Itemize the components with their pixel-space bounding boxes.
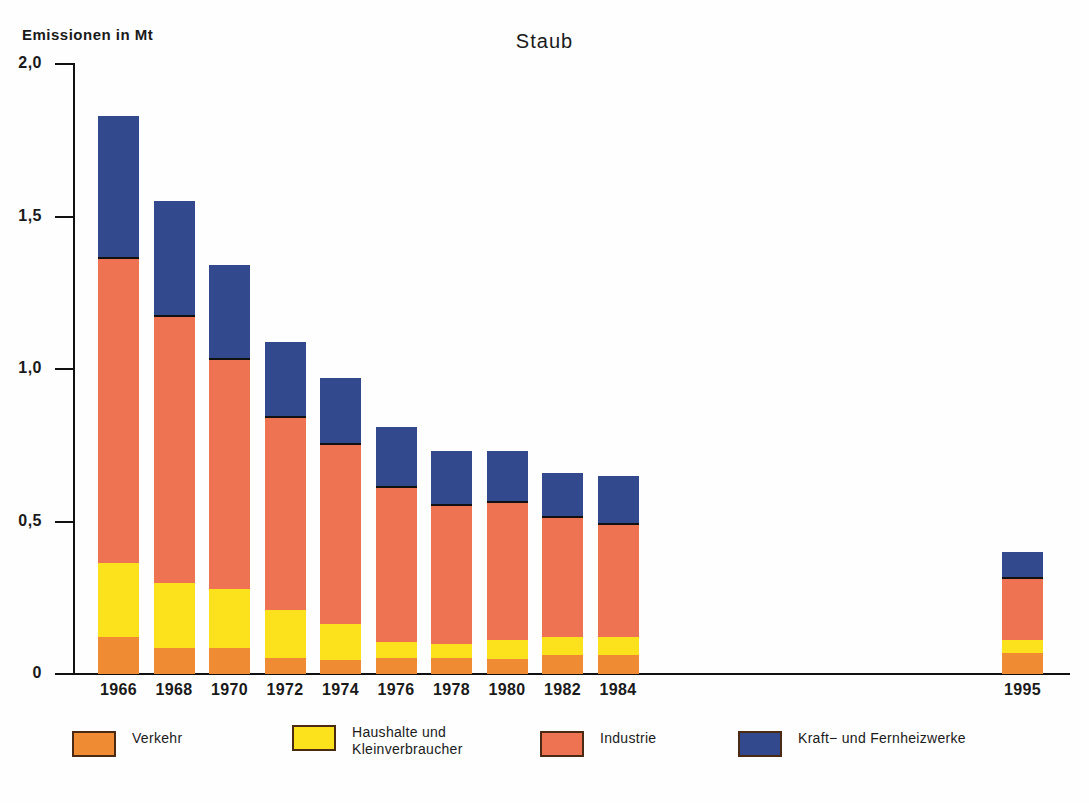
bar-1970[interactable] bbox=[209, 265, 250, 674]
bar-segment-haushalte bbox=[376, 642, 417, 658]
bar-segment-industrie bbox=[265, 418, 306, 610]
bar-segment-industrie bbox=[1002, 579, 1043, 640]
bar-1968[interactable] bbox=[154, 201, 195, 674]
bar-1982[interactable] bbox=[542, 473, 583, 674]
bar-segment-kraft bbox=[1002, 552, 1043, 579]
y-tick-2 bbox=[55, 368, 75, 370]
bar-segment-verkehr bbox=[154, 648, 195, 674]
y-tick-0 bbox=[55, 63, 75, 65]
legend-item-2[interactable]: Industrie bbox=[540, 730, 656, 757]
plot-area: 2,01,51,00,50 19661968197019721974197619… bbox=[0, 0, 1089, 700]
bar-1978[interactable] bbox=[431, 451, 472, 674]
bar-segment-kraft bbox=[376, 427, 417, 488]
bar-segment-haushalte bbox=[542, 637, 583, 655]
bar-segment-haushalte bbox=[265, 610, 306, 658]
legend-label-1: Haushalte und Kleinverbraucher bbox=[352, 724, 463, 758]
legend-item-0[interactable]: Verkehr bbox=[72, 730, 182, 757]
bar-segment-haushalte bbox=[431, 644, 472, 659]
legend-swatch-icon-3 bbox=[738, 731, 782, 757]
bar-1966[interactable] bbox=[98, 116, 139, 674]
bar-segment-haushalte bbox=[209, 589, 250, 648]
bar-segment-haushalte bbox=[1002, 640, 1043, 652]
bar-segment-verkehr bbox=[320, 660, 361, 674]
bar-segment-industrie bbox=[376, 488, 417, 642]
bar-segment-haushalte bbox=[154, 583, 195, 649]
bar-segment-kraft bbox=[542, 473, 583, 519]
x-axis-label-1995: 1995 bbox=[983, 681, 1063, 699]
bar-segment-verkehr bbox=[431, 658, 472, 674]
legend: VerkehrHaushalte und KleinverbraucherInd… bbox=[0, 722, 1089, 782]
bar-segment-kraft bbox=[320, 378, 361, 445]
legend-swatch-icon-1 bbox=[292, 725, 336, 751]
y-tick-label-0: 2,0 bbox=[0, 54, 42, 72]
bar-segment-industrie bbox=[98, 259, 139, 562]
bar-segment-industrie bbox=[154, 317, 195, 582]
bar-segment-industrie bbox=[598, 525, 639, 638]
bar-segment-verkehr bbox=[98, 637, 139, 674]
bar-segment-kraft bbox=[98, 116, 139, 259]
bar-segment-industrie bbox=[542, 518, 583, 637]
bar-segment-haushalte bbox=[487, 640, 528, 658]
y-tick-4 bbox=[55, 673, 75, 675]
legend-swatch-icon-2 bbox=[540, 731, 584, 757]
bar-1976[interactable] bbox=[376, 427, 417, 674]
bar-1984[interactable] bbox=[598, 476, 639, 674]
bar-segment-industrie bbox=[487, 503, 528, 640]
bar-segment-verkehr bbox=[265, 658, 306, 674]
bar-segment-verkehr bbox=[209, 648, 250, 674]
legend-label-3: Kraft− und Fernheizwerke bbox=[798, 730, 966, 747]
y-tick-1 bbox=[55, 216, 75, 218]
legend-item-3[interactable]: Kraft− und Fernheizwerke bbox=[738, 730, 966, 757]
bar-segment-kraft bbox=[598, 476, 639, 525]
bar-segment-kraft bbox=[154, 201, 195, 317]
bar-segment-haushalte bbox=[320, 624, 361, 660]
x-axis-label-1984: 1984 bbox=[578, 681, 658, 699]
bar-segment-industrie bbox=[209, 360, 250, 589]
y-tick-label-3: 0,5 bbox=[0, 512, 42, 530]
bar-segment-industrie bbox=[320, 445, 361, 624]
bar-segment-haushalte bbox=[598, 637, 639, 655]
legend-item-1[interactable]: Haushalte und Kleinverbraucher bbox=[292, 724, 463, 758]
y-tick-label-2: 1,0 bbox=[0, 359, 42, 377]
bar-segment-kraft bbox=[487, 451, 528, 503]
y-tick-3 bbox=[55, 521, 75, 523]
bar-segment-verkehr bbox=[542, 655, 583, 674]
bar-1995[interactable] bbox=[1002, 552, 1043, 674]
bar-1974[interactable] bbox=[320, 378, 361, 674]
bar-segment-haushalte bbox=[98, 563, 139, 638]
bar-segment-industrie bbox=[431, 506, 472, 643]
y-tick-label-4: 0 bbox=[0, 664, 42, 682]
bar-segment-kraft bbox=[209, 265, 250, 360]
chart-root: Emissionen in Mt Staub 2,01,51,00,50 196… bbox=[0, 0, 1089, 803]
bar-segment-kraft bbox=[431, 451, 472, 506]
bar-1980[interactable] bbox=[487, 451, 528, 674]
legend-swatch-icon-0 bbox=[72, 731, 116, 757]
legend-label-2: Industrie bbox=[600, 730, 656, 747]
bar-segment-kraft bbox=[265, 342, 306, 418]
bar-segment-verkehr bbox=[376, 658, 417, 674]
bar-segment-verkehr bbox=[1002, 653, 1043, 674]
bar-segment-verkehr bbox=[598, 655, 639, 674]
legend-label-0: Verkehr bbox=[132, 730, 182, 747]
bar-1972[interactable] bbox=[265, 342, 306, 674]
y-tick-label-1: 1,5 bbox=[0, 207, 42, 225]
bar-segment-verkehr bbox=[487, 659, 528, 674]
